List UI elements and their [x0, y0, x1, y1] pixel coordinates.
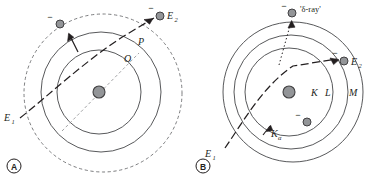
panel-letter-a: A: [11, 162, 17, 172]
figure-root: − − E 1 E 2 P O A: [0, 0, 378, 180]
label-delta-ray: 'δ-ray': [300, 4, 321, 14]
label-exit-energy-subscript: 2: [359, 62, 363, 69]
label-incident-energy: E: [204, 148, 211, 159]
nucleus: [283, 86, 295, 98]
ejected-electron-charge-label: −: [47, 12, 52, 22]
label-exit-energy: E: [166, 10, 173, 21]
ejected-electron: [56, 20, 64, 28]
label-orbit-o: O: [124, 53, 131, 64]
orbiting-electron-charge-label: −: [295, 110, 300, 120]
panel-a: − − E 1 E 2 P O A: [0, 0, 189, 180]
panel-letter-b: B: [200, 162, 206, 172]
label-shell-m: M: [348, 87, 358, 98]
panel-b: − − − 'δ-ray' E 1 E 2 K L M K α B: [189, 0, 378, 180]
label-incident-energy-subscript: 1: [12, 118, 15, 125]
exit-electron-charge-label: −: [148, 3, 153, 13]
trajectory-delta-ray: [279, 22, 291, 65]
nucleus: [93, 86, 105, 98]
label-shell-k: K: [310, 87, 319, 98]
label-incident-energy: E: [3, 112, 10, 123]
orbiting-electron: [303, 118, 311, 126]
label-orbit-p: P: [137, 36, 144, 47]
delta-ray-charge-label: −: [281, 1, 286, 11]
label-exit-energy-subscript: 2: [175, 16, 179, 23]
delta-ray-electron: [288, 9, 296, 17]
label-k-alpha-subscript: α: [278, 134, 282, 141]
label-shell-l: L: [324, 87, 331, 98]
label-incident-energy-subscript: 1: [213, 154, 216, 161]
panel-a-diagram: − − E 1 E 2 P O A: [0, 0, 189, 180]
panel-b-diagram: − − − 'δ-ray' E 1 E 2 K L M K α B: [189, 0, 378, 180]
exit-particle-dot: [340, 57, 348, 65]
exit-electron-charge-label: −: [332, 48, 337, 58]
label-exit-energy: E: [350, 56, 357, 67]
exit-particle-dot: [156, 12, 164, 20]
